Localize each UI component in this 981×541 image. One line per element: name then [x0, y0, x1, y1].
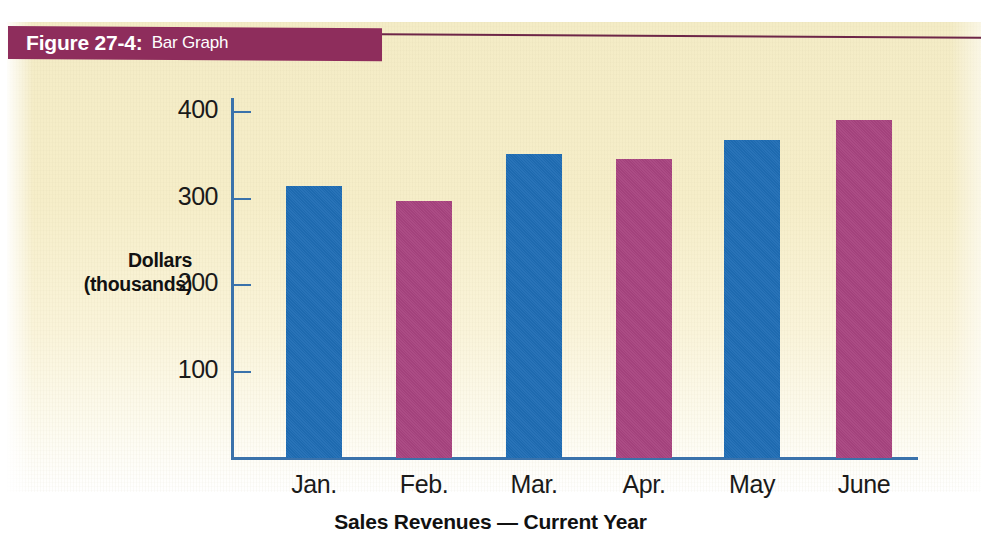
y-axis-title: Dollars(thousands) [20, 248, 192, 296]
y-axis-title-line2: (thousands) [20, 272, 192, 296]
figure-page: Figure 27-4: Bar Graph 100200300400 Jan.… [0, 0, 981, 541]
chart-caption: Sales Revenues — Current Year [0, 510, 981, 534]
figure-title: Bar Graph [152, 33, 229, 53]
figure-label: Figure 27-4: [26, 31, 143, 55]
paper-right-fade [951, 22, 981, 492]
figure-banner-text: Figure 27-4: Bar Graph [26, 29, 228, 57]
y-axis-title-line1: Dollars [20, 248, 192, 272]
